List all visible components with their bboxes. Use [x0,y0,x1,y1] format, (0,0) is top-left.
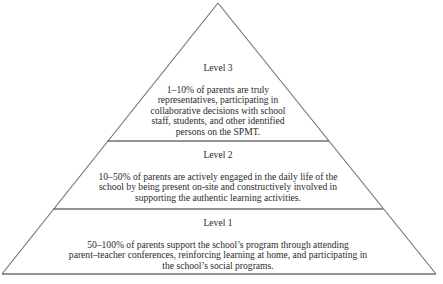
pyramid-left-edge [2,3,218,274]
level-1-description: 50–100% of parents support the school’s … [28,240,408,271]
level-2-label: Level 2 [168,149,268,160]
level-1-label: Level 1 [168,217,268,228]
level-3-line: persons on the SPMT. [118,127,318,137]
level-3-description: 1–10% of parents are truly representativ… [118,85,318,137]
level-2-description: 10–50% of parents are actively engaged i… [68,172,368,203]
level-3-label: Level 3 [168,62,268,73]
level-2-line: supporting the authentic learning activi… [68,193,368,203]
pyramid-right-edge [218,3,436,274]
level-1-line: the school’s social programs. [28,261,408,271]
